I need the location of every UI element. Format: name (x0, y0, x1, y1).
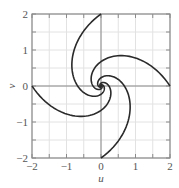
y-tick-label: −1 (16, 116, 28, 128)
y-axis-label: v (5, 83, 17, 88)
x-axis-label: u (98, 172, 104, 184)
x-tick-label: 0 (98, 160, 104, 172)
y-tick-label: 0 (23, 80, 29, 92)
y-tick-labels: −2−1012 (16, 8, 28, 164)
x-tick-label: 1 (133, 160, 139, 172)
y-tick-label: 2 (23, 8, 29, 20)
y-tick-label: −2 (16, 152, 28, 164)
x-tick-labels: −2−1012 (26, 160, 173, 172)
x-tick-label: −1 (61, 160, 73, 172)
y-tick-label: 1 (23, 44, 29, 56)
x-tick-label: 2 (167, 160, 173, 172)
spiral-chart: −2−1012 −2−1012 u v (0, 0, 179, 188)
